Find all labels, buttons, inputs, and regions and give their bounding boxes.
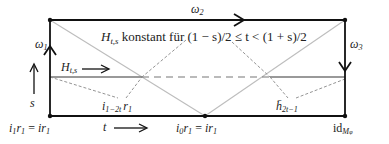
- lt-r-sub: 1: [128, 105, 132, 114]
- br-sub-wrap: Mφ: [342, 127, 352, 136]
- br-id: id: [333, 121, 342, 135]
- omega1-sub: 1: [43, 43, 47, 52]
- callout-right-b: [296, 79, 345, 98]
- bottom-right-label: idMφ: [333, 122, 353, 134]
- br-subsub: φ: [349, 129, 352, 135]
- corner-dot-tl: [48, 18, 52, 22]
- s-axis-label: s: [30, 97, 35, 109]
- omega3-label: ω3: [350, 38, 363, 50]
- bm-c-sub: 1: [213, 127, 217, 136]
- omega2-label: ω2: [191, 3, 204, 15]
- constant-h: H: [101, 29, 110, 44]
- h-symbol: H: [61, 60, 70, 74]
- bm-eq: =: [192, 121, 205, 135]
- callout-right-a: [270, 77, 288, 98]
- callout-note-right: [232, 42, 270, 77]
- bm-c: ir: [205, 121, 213, 135]
- omega2-sub: 2: [199, 8, 203, 17]
- h-sub: t,s: [70, 66, 77, 75]
- bl-c-sub: 1: [46, 127, 50, 136]
- omega1-label: ω1: [35, 38, 48, 50]
- corner-dot-tr: [343, 18, 347, 22]
- bottom-left-label: i1r1 = ir1: [9, 122, 50, 134]
- omega3-sub: 3: [358, 43, 362, 52]
- corner-dot-bl: [48, 114, 52, 118]
- bl-c: ir: [38, 121, 46, 135]
- constant-note: Ht,s konstant für (1 − s)/2 ≤ t < (1 + s…: [101, 30, 307, 43]
- constant-note-text: konstant für (1 − s)/2 ≤ t < (1 + s)/2: [122, 29, 307, 44]
- rt-sub: 2t−1: [282, 105, 298, 114]
- h-path-label: Ht,s: [61, 61, 77, 73]
- corner-dot-bm: [203, 114, 207, 118]
- callout-left-a: [50, 77, 118, 98]
- callout-note-left: [142, 40, 186, 77]
- bl-eq: =: [25, 121, 38, 135]
- right-triangle-label: h̄2t−1: [276, 100, 298, 112]
- corner-dot-br: [343, 114, 347, 118]
- lt-sub: 1−2t: [105, 105, 121, 114]
- bottom-middle-label: i0r1 = ir1: [176, 122, 217, 134]
- t-axis-label: t: [103, 121, 106, 133]
- left-triangle-label: i1−2tr1: [102, 100, 132, 112]
- callout-left-b: [126, 77, 142, 98]
- constant-h-sub: t,s: [110, 36, 118, 46]
